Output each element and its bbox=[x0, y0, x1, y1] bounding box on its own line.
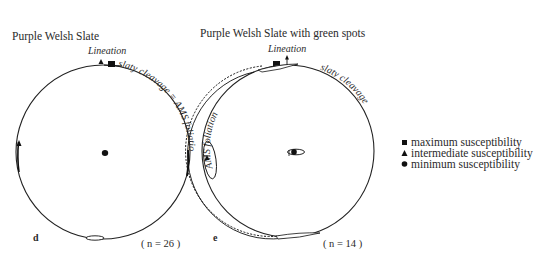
panel-d-label: d bbox=[33, 232, 39, 243]
stereonet-figure: Purple Welsh Slate Lineation slaty cleav… bbox=[0, 0, 556, 257]
ams-foliation-great-circle bbox=[186, 66, 280, 236]
panel-e-label: e bbox=[213, 232, 218, 243]
panel-e-title: Purple Welsh Slate with green spots bbox=[200, 27, 366, 40]
legend: maximum susceptibility intermediate susc… bbox=[402, 136, 533, 171]
panel-d: Purple Welsh Slate Lineation slaty cleav… bbox=[0, 0, 198, 250]
triangle-icon bbox=[402, 150, 408, 156]
confidence-ellipse-bottom bbox=[86, 236, 104, 240]
circle-icon bbox=[402, 161, 408, 167]
legend-item-minimum: minimum susceptibility bbox=[411, 158, 520, 171]
lineation-label: Lineation bbox=[87, 45, 126, 56]
lineation-label: Lineation bbox=[267, 43, 306, 54]
minimum-axis-marker bbox=[291, 149, 297, 155]
square-icon bbox=[402, 140, 407, 145]
slaty-cleavage-label: slaty cleavage bbox=[319, 61, 372, 106]
cleavage-foliation-label: slaty cleavage = AMS foliation bbox=[0, 0, 198, 151]
panel-d-sample-count: ( n = 26 ) bbox=[141, 238, 181, 250]
confidence-ellipse-left bbox=[18, 142, 19, 172]
panel-e: Purple Welsh Slate with green spots Line… bbox=[186, 27, 374, 250]
panel-d-title: Purple Welsh Slate bbox=[12, 30, 99, 43]
confidence-ellipse-bottom bbox=[276, 233, 320, 239]
panel-e-sample-count: ( n = 14 ) bbox=[323, 238, 363, 250]
intermediate-axis-marker bbox=[99, 59, 104, 64]
minimum-axis-marker bbox=[102, 150, 108, 156]
lineation-arrow-head bbox=[285, 55, 289, 60]
ams-foliation-label: AMS foliation bbox=[201, 110, 220, 171]
